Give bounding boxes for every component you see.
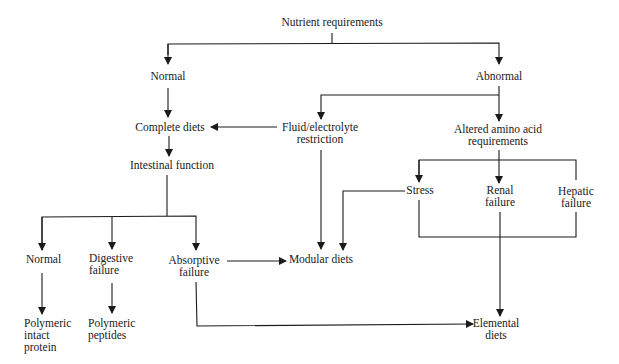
node-label-line-2: restriction [282, 133, 358, 145]
node-label-line-1: Polymeric [88, 317, 135, 329]
node-label-line-1: Hepatic [558, 185, 594, 197]
node-label-line-2: peptides [88, 329, 135, 341]
node-label: Normal [150, 70, 185, 82]
connector-lines [0, 0, 619, 364]
node-label-line-1: Absorptive [168, 254, 219, 266]
node-label: Intestinal function [130, 159, 214, 171]
node-label: Stress [406, 184, 433, 196]
node-polymeric-intact-protein: Polymeric intact protein [24, 317, 71, 353]
node-label-line-2: failure [168, 266, 219, 278]
node-label-line-2: failure [558, 197, 594, 209]
node-label-line-2: failure [89, 264, 133, 276]
node-label-line-3: protein [24, 341, 71, 353]
node-label: Nutrient requirements [281, 16, 382, 28]
node-renal-failure: Renal failure [485, 184, 515, 208]
node-label-line-1: Digestive [89, 252, 133, 264]
node-label: Complete diets [135, 121, 204, 133]
node-stress: Stress [406, 184, 433, 196]
node-abnormal: Abnormal [476, 70, 523, 82]
node-altered-amino-acid: Altered amino acid requirements [454, 123, 542, 147]
node-label-line-2: requirements [454, 135, 542, 147]
node-label: Normal [26, 253, 61, 265]
node-hepatic-failure: Hepatic failure [558, 185, 594, 209]
node-digestive-failure: Digestive failure [89, 252, 133, 276]
node-label-line-1: Renal [485, 184, 515, 196]
node-normal-top: Normal [150, 70, 185, 82]
node-label: Abnormal [476, 70, 523, 82]
node-label-line-2: diets [473, 329, 520, 341]
node-modular-diets: Modular diets [289, 253, 353, 265]
node-absorptive-failure: Absorptive failure [168, 254, 219, 278]
node-label-line-1: Altered amino acid [454, 123, 542, 135]
node-nutrient-requirements: Nutrient requirements [281, 16, 382, 28]
node-label-line-1: Elemental [473, 317, 520, 329]
node-label: Modular diets [289, 253, 353, 265]
node-polymeric-peptides: Polymeric peptides [88, 317, 135, 341]
node-label-line-1: Polymeric [24, 317, 71, 329]
node-label-line-2: intact [24, 329, 71, 341]
node-label-line-2: failure [485, 196, 515, 208]
node-normal-bottom: Normal [26, 253, 61, 265]
node-elemental-diets: Elemental diets [473, 317, 520, 341]
node-label-line-1: Fluid/electrolyte [282, 121, 358, 133]
node-intestinal-function: Intestinal function [130, 159, 214, 171]
node-complete-diets: Complete diets [135, 121, 204, 133]
node-fluid-electrolyte-restriction: Fluid/electrolyte restriction [282, 121, 358, 145]
